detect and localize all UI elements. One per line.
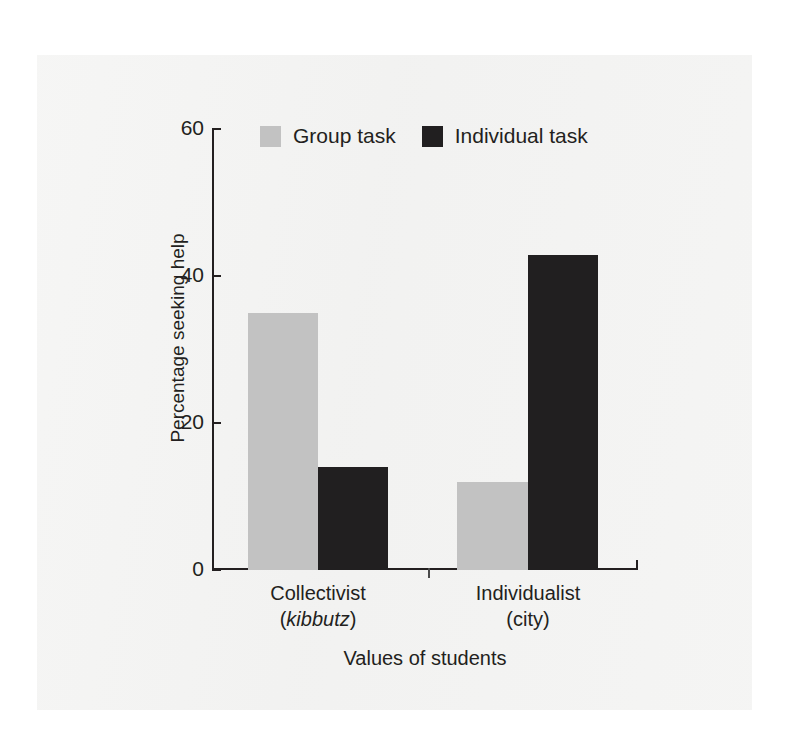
bar-chart-figure: Group task Individual task 0 20 40 60 (140, 95, 660, 685)
y-tick-mark-20 (212, 422, 221, 424)
y-axis-line (212, 128, 214, 570)
x-category-label-individualist: Individualist (city) (423, 580, 633, 632)
legend-swatch-icon-group-task (260, 126, 281, 147)
chart-legend: Group task Individual task (260, 124, 588, 148)
legend-label-group-task: Group task (293, 124, 396, 148)
legend-item-group-task: Group task (260, 124, 396, 148)
x-axis-group-separator-tick (428, 568, 430, 578)
y-tick-mark-40 (212, 275, 221, 277)
y-tick-label-60: 60 (164, 117, 204, 138)
x-category-label-collectivist-line2: (kibbutz) (213, 606, 423, 632)
bar-individualist-group-task (457, 482, 528, 570)
x-category-label-individualist-line1: Individualist (476, 582, 581, 604)
y-tick-mark-0 (212, 569, 221, 571)
bar-individualist-individual-task (528, 255, 598, 570)
y-tick-label-0: 0 (164, 558, 204, 579)
x-category-label-individualist-line2: (city) (423, 606, 633, 632)
x-axis-right-cap (636, 560, 638, 570)
legend-label-individual-task: Individual task (455, 124, 588, 148)
plot-area: Group task Individual task 0 20 40 60 (140, 95, 660, 685)
x-category-label-collectivist-line1: Collectivist (270, 582, 366, 604)
y-axis-title: Percentage seeking help (167, 208, 189, 468)
x-category-label-collectivist: Collectivist (kibbutz) (213, 580, 423, 632)
y-axis-top-cap (212, 128, 221, 130)
legend-swatch-icon-individual-task (422, 126, 443, 147)
x-axis-title: Values of students (212, 647, 638, 670)
figure-page: Group task Individual task 0 20 40 60 (0, 0, 789, 752)
bar-collectivist-group-task (248, 313, 318, 570)
bar-collectivist-individual-task (318, 467, 388, 570)
legend-item-individual-task: Individual task (422, 124, 588, 148)
